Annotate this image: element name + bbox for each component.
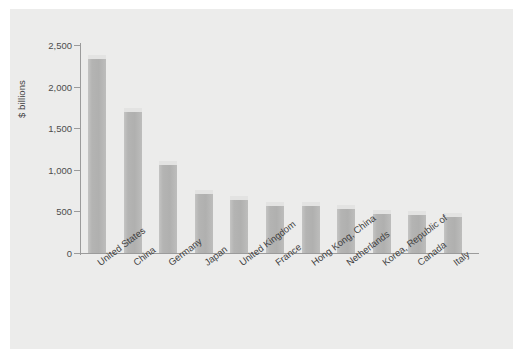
bar-cap: [266, 202, 284, 206]
chart-figure: $ billions 05001,0001,5002,0002,500 Unit…: [0, 0, 523, 359]
y-tick-label: 0: [26, 248, 72, 259]
bar: [159, 165, 177, 253]
bar: [302, 206, 320, 253]
bar-cap: [302, 202, 320, 206]
bar-cap: [373, 210, 391, 214]
y-tick-label: 2,500: [26, 40, 72, 51]
bar-cap: [408, 211, 426, 215]
y-tick-label: 1,500: [26, 123, 72, 134]
y-tick-label: 500: [26, 206, 72, 217]
bar-cap: [88, 55, 106, 59]
y-tick-label: 1,000: [26, 164, 72, 175]
y-tick-mark: [74, 253, 80, 254]
bar: [230, 200, 248, 253]
bar: [88, 59, 106, 253]
bar-cap: [159, 161, 177, 165]
y-tick-label: 2,000: [26, 81, 72, 92]
bar-cap: [337, 205, 355, 209]
bar-cap: [124, 108, 142, 112]
bar-cap: [195, 190, 213, 194]
plot-area: [80, 45, 478, 253]
bar-cap: [230, 196, 248, 200]
